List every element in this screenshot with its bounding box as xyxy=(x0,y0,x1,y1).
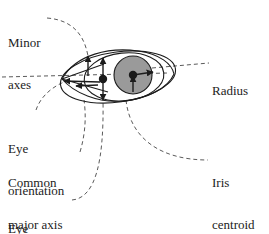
eye-centroid-dot xyxy=(99,75,107,83)
leader-minor-axes xyxy=(47,18,88,56)
label-iris-centroid-line2: centroid xyxy=(212,218,255,232)
label-common-major-axis-line1: Common xyxy=(8,176,63,190)
label-minor-axes-line2: axes xyxy=(8,78,41,92)
leader-iris-centroid xyxy=(126,100,208,160)
eye-model-figure: Minor axes Radius Eye orientation Common… xyxy=(0,0,269,234)
major-axis-arrow-left-inner xyxy=(76,85,98,86)
label-eye-centroid-line1: Eye xyxy=(8,222,51,234)
label-radius: Radius xyxy=(212,56,248,126)
label-minor-axes-line1: Minor xyxy=(8,36,41,50)
label-iris-centroid-line1: Iris xyxy=(212,176,255,190)
label-minor-axes: Minor axes xyxy=(8,8,41,120)
label-iris-centroid: Iris centroid xyxy=(212,148,255,234)
iris-centroid-dot xyxy=(129,71,137,79)
label-eye-centroid: Eye centroid xyxy=(8,194,51,234)
leader-common-major-axis xyxy=(80,100,85,152)
label-radius-line1: Radius xyxy=(212,84,248,98)
major-axis-arrow-left-outer xyxy=(64,81,100,82)
leader-eye-centroid xyxy=(72,100,103,200)
canthus-upper-line xyxy=(62,64,104,79)
